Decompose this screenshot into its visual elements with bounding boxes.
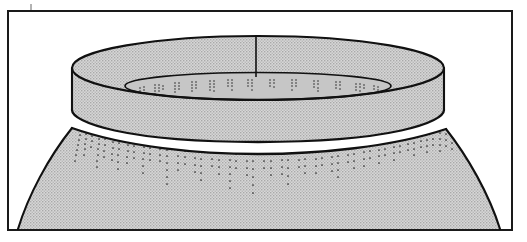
vessel-line-drawing <box>0 0 527 242</box>
collar-group <box>72 36 444 142</box>
illustration-frame <box>0 0 527 242</box>
figure-root <box>0 0 527 242</box>
